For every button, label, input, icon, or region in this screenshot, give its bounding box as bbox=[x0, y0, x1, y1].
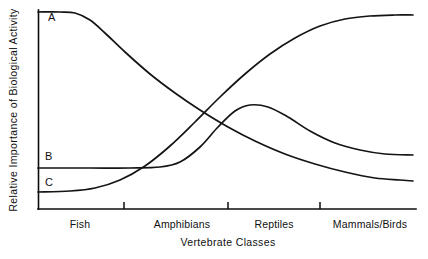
data-curve-a bbox=[38, 12, 413, 181]
y-axis-title: Relative Importance of Biological Activi… bbox=[7, 8, 19, 212]
x-tick-label-amphibians: Amphibians bbox=[154, 218, 210, 230]
chart-figure: A B C Fish Amphibians Reptiles Mammals/B… bbox=[0, 0, 428, 259]
x-tick-label-fish: Fish bbox=[70, 218, 90, 230]
x-tick-label-mammals-birds: Mammals/Birds bbox=[333, 218, 407, 230]
curve-label-c: C bbox=[45, 176, 53, 188]
x-axis-title: Vertebrate Classes bbox=[180, 236, 275, 248]
data-curve-c bbox=[38, 15, 413, 192]
curve-label-b: B bbox=[45, 150, 53, 162]
x-axis-ticks bbox=[124, 202, 320, 209]
chart-plot-area: A B C Fish Amphibians Reptiles Mammals/B… bbox=[0, 0, 428, 259]
curve-label-a: A bbox=[48, 11, 56, 23]
data-curve-b bbox=[38, 105, 413, 168]
x-tick-label-reptiles: Reptiles bbox=[254, 218, 293, 230]
